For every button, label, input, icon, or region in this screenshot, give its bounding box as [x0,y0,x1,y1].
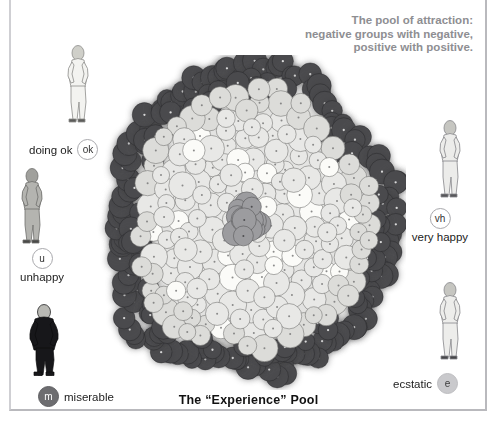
legend-label-very-happy: very happy [412,231,468,243]
legend-item-unhappy[interactable]: u unhappy [20,248,64,283]
figure-doing-ok [60,45,94,127]
legend-badge-vh[interactable]: vh [429,208,450,229]
pool-node-cloud [96,55,406,390]
legend-badge-ok[interactable]: ok [77,139,98,160]
figure-miserable [24,304,66,380]
caption-line-3: positive with positive. [243,41,473,55]
caption-line-2: negative groups with negative, [243,28,473,42]
figure-canvas: The pool of attraction: negative groups … [0,0,497,436]
legend-item-ecstatic[interactable]: ecstatic e [393,373,458,394]
caption-block: The pool of attraction: negative groups … [243,14,473,55]
legend-badge-e[interactable]: e [437,373,458,394]
legend-badge-u[interactable]: u [32,248,53,269]
legend-item-very-happy[interactable]: vh very happy [412,208,468,243]
figure-very-happy [432,120,466,202]
figure-unhappy [14,168,50,248]
caption-line-1: The pool of attraction: [243,14,473,28]
legend-label-ecstatic: ecstatic [393,378,432,390]
legend-item-doing-ok[interactable]: doing ok ok [29,139,98,160]
legend-label-doing-ok: doing ok [29,144,72,156]
pool-title: The “Experience” Pool [0,393,497,407]
figure-ecstatic [432,282,466,364]
experience-pool [96,55,406,390]
legend-label-unhappy: unhappy [20,271,64,283]
